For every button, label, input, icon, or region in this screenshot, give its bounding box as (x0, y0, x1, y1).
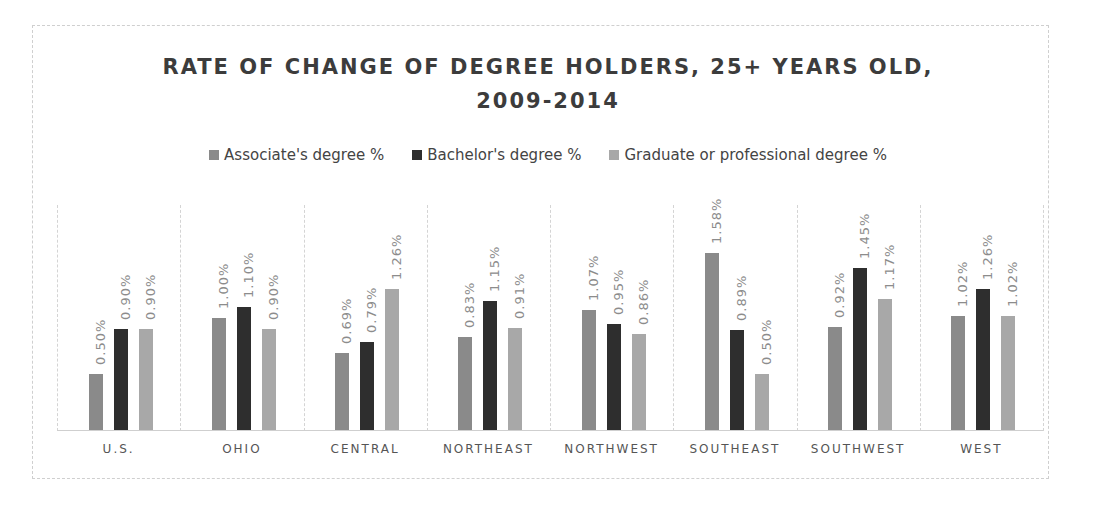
bar-value-label: 0.79% (364, 286, 379, 332)
category-label: NORTHEAST (427, 442, 550, 456)
bar-value-label: 0.86% (636, 278, 651, 324)
bar (705, 253, 719, 430)
category-separator (797, 205, 798, 431)
bar (951, 316, 965, 430)
bar-value-label: 0.89% (734, 275, 749, 321)
bar (483, 301, 497, 430)
bar-value-label: 1.15% (487, 246, 502, 292)
legend-label-graduate: Graduate or professional degree % (624, 146, 886, 164)
category-separator (304, 205, 305, 431)
bar-value-label: 1.58% (709, 198, 724, 244)
legend-label-associate: Associate's degree % (224, 146, 384, 164)
legend-label-bachelor: Bachelor's degree % (427, 146, 581, 164)
bar-value-label: 1.17% (882, 244, 897, 290)
bar-value-label: 1.00% (216, 263, 231, 309)
chart-title-line-2: 2009-2014 (0, 84, 1096, 118)
category-separator (57, 205, 58, 431)
category-separator (550, 205, 551, 431)
legend-swatch-bachelor (412, 150, 422, 160)
category-label: U.S. (57, 442, 180, 456)
bar (262, 329, 276, 430)
chart-title: RATE OF CHANGE OF DEGREE HOLDERS, 25+ YE… (0, 50, 1096, 118)
bar-value-label: 1.02% (1005, 260, 1020, 306)
chart-legend: Associate's degree % Bachelor's degree %… (0, 146, 1096, 164)
bar (755, 374, 769, 430)
bar (458, 337, 472, 430)
bar (730, 330, 744, 430)
bar-value-label: 0.83% (462, 282, 477, 328)
category-label: NORTHWEST (550, 442, 673, 456)
category-label: WEST (920, 442, 1043, 456)
bar-value-label: 0.92% (832, 272, 847, 318)
bar (89, 374, 103, 430)
bar-value-label: 1.45% (857, 212, 872, 258)
bar (385, 289, 399, 430)
bar-value-label: 1.07% (586, 255, 601, 301)
category-label: CENTRAL (304, 442, 427, 456)
category-separator (427, 205, 428, 431)
bar (976, 289, 990, 430)
bar-value-label: 0.50% (759, 319, 774, 365)
bar-value-label: 0.90% (266, 274, 281, 320)
bar (853, 268, 867, 430)
category-label: SOUTHWEST (797, 442, 920, 456)
x-axis-line (57, 430, 1043, 431)
bar-value-label: 0.91% (512, 273, 527, 319)
bar (114, 329, 128, 430)
bar (360, 342, 374, 430)
bar (632, 334, 646, 430)
legend-swatch-associate (209, 150, 219, 160)
bar (607, 324, 621, 430)
chart-title-line-1: RATE OF CHANGE OF DEGREE HOLDERS, 25+ YE… (0, 50, 1096, 84)
legend-swatch-graduate (609, 150, 619, 160)
bar-value-label: 0.69% (339, 297, 354, 343)
bar-value-label: 0.50% (93, 319, 108, 365)
category-separator (1043, 205, 1044, 431)
bar (212, 318, 226, 430)
bar-value-label: 1.26% (980, 234, 995, 280)
category-label: SOUTHEAST (673, 442, 796, 456)
bar-value-label: 1.26% (389, 234, 404, 280)
bar (508, 328, 522, 430)
bar-value-label: 1.02% (955, 260, 970, 306)
category-separator (920, 205, 921, 431)
legend-item-graduate: Graduate or professional degree % (609, 146, 886, 164)
category-separator (673, 205, 674, 431)
bar (1001, 316, 1015, 430)
bar (828, 327, 842, 430)
category-separator (180, 205, 181, 431)
bar (139, 329, 153, 430)
legend-item-associate: Associate's degree % (209, 146, 384, 164)
bar (237, 307, 251, 430)
bar-value-label: 0.90% (143, 274, 158, 320)
bar-value-label: 0.95% (611, 268, 626, 314)
legend-item-bachelor: Bachelor's degree % (412, 146, 581, 164)
category-label: OHIO (180, 442, 303, 456)
bar (582, 310, 596, 430)
bar-value-label: 0.90% (118, 274, 133, 320)
bar (335, 353, 349, 430)
bar-value-label: 1.10% (241, 251, 256, 297)
bar (878, 299, 892, 430)
